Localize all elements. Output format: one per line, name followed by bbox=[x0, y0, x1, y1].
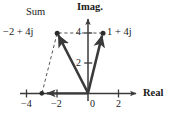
point-marker-1-plus4j bbox=[101, 31, 106, 36]
point-marker-sum bbox=[39, 91, 44, 96]
ytick-label-2: 2 bbox=[76, 58, 81, 68]
ytick-label-4: 4 bbox=[76, 27, 81, 37]
point-marker-minus2-plus4j bbox=[55, 31, 60, 36]
dashed-diagonal-line bbox=[42, 34, 57, 93]
sum-label: Sum bbox=[26, 7, 45, 18]
xtick-label-2: 2 bbox=[116, 99, 121, 109]
vector-b-arrow bbox=[88, 36, 102, 93]
xtick-label-minus4: −4 bbox=[21, 99, 32, 109]
imag-axis-label: Imag. bbox=[77, 2, 103, 13]
xtick-label-zero: 0 bbox=[90, 99, 95, 109]
real-axis-label: Real bbox=[143, 88, 163, 99]
xtick-label-minus2: −2 bbox=[51, 99, 62, 109]
vectors-group bbox=[47, 36, 102, 94]
vector-a-arrow bbox=[59, 36, 89, 94]
complex-plane-figure: Sum −2 + 4j 1 + 4j Imag. Real −4 −2 0 2 … bbox=[0, 0, 184, 128]
point-label-left: −2 + 4j bbox=[3, 27, 34, 38]
point-label-right: 1 + 4j bbox=[107, 27, 132, 38]
